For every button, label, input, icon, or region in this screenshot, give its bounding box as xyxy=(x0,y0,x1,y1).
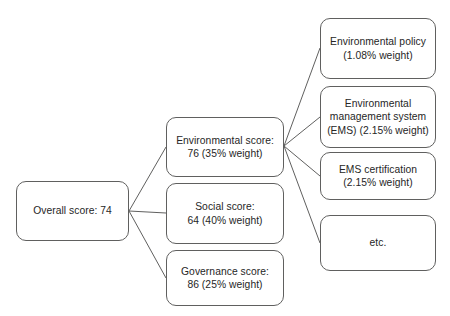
edge-overall-social xyxy=(129,211,166,213)
edge-overall-environmental xyxy=(129,147,166,211)
node-overall-score[interactable]: Overall score: 74 xyxy=(16,181,129,241)
edge-environmental-policy xyxy=(284,48,320,146)
node-environmental-management-system[interactable]: Environmental management system (EMS) (2… xyxy=(320,86,436,148)
node-etc-label: etc. xyxy=(365,236,392,249)
edge-overall-governance xyxy=(129,211,166,278)
node-environmental-score-label: Environmental score: 76 (35% weight) xyxy=(171,134,279,161)
node-ems-certification-label: EMS certification (2.15% weight) xyxy=(334,163,422,190)
node-environmental-management-system-label: Environmental management system (EMS) (2… xyxy=(322,97,434,137)
node-ems-certification[interactable]: EMS certification (2.15% weight) xyxy=(320,152,436,200)
node-environmental-policy-label: Environmental policy (1.08% weight) xyxy=(325,35,431,62)
edge-environmental-emscert xyxy=(284,146,320,176)
node-governance-score-label: Governance score: 86 (25% weight) xyxy=(176,265,274,292)
node-environmental-policy[interactable]: Environmental policy (1.08% weight) xyxy=(320,18,436,79)
edge-environmental-ems xyxy=(284,117,320,146)
node-social-score-label: Social score: 64 (40% weight) xyxy=(182,200,267,227)
diagram-canvas: Overall score: 74 Environmental score: 7… xyxy=(0,0,450,316)
edge-environmental-etc xyxy=(284,146,320,243)
node-overall-score-label: Overall score: 74 xyxy=(28,204,117,217)
node-environmental-score[interactable]: Environmental score: 76 (35% weight) xyxy=(166,117,284,177)
node-social-score[interactable]: Social score: 64 (40% weight) xyxy=(166,183,284,244)
node-etc[interactable]: etc. xyxy=(320,215,436,271)
node-governance-score[interactable]: Governance score: 86 (25% weight) xyxy=(166,250,284,306)
